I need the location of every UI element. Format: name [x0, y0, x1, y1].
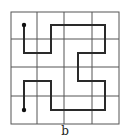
path-start-dot	[22, 23, 26, 27]
path-end-dot	[22, 108, 26, 112]
grid-path-diagram	[0, 0, 127, 138]
figure-label: b	[0, 124, 127, 138]
grid	[11, 12, 119, 124]
grid-border	[11, 12, 119, 124]
